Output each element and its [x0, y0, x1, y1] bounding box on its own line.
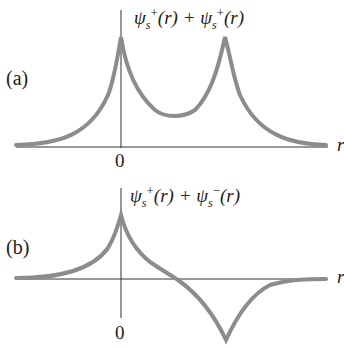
- superscript: +: [146, 183, 153, 198]
- psi-symbol: ψ: [134, 7, 146, 28]
- subscript: s: [212, 18, 217, 32]
- axis-label-a: r: [337, 134, 344, 156]
- panel-label-b: (b): [6, 236, 29, 259]
- origin-label-a: 0: [115, 150, 125, 172]
- subscript: s: [208, 196, 213, 210]
- argument: (r): [220, 185, 240, 206]
- curve-symmetric-sum: [16, 37, 326, 145]
- curve-antisymmetric-sum: [16, 215, 326, 340]
- psi-symbol: ψ: [200, 7, 212, 28]
- argument: (r) +: [158, 7, 196, 28]
- equation-a: ψs+(r) + ψs+(r): [134, 5, 244, 33]
- superscript: −: [213, 183, 220, 198]
- diagram-canvas: [0, 0, 344, 350]
- psi-symbol: ψ: [196, 185, 208, 206]
- argument: (r) +: [154, 185, 192, 206]
- superscript: +: [217, 5, 224, 20]
- argument: (r): [224, 7, 244, 28]
- subscript: s: [146, 18, 151, 32]
- panel-label-a: (a): [6, 67, 28, 90]
- subscript: s: [142, 196, 147, 210]
- psi-symbol: ψ: [130, 185, 142, 206]
- origin-label-b: 0: [115, 322, 125, 344]
- equation-b: ψs+(r) + ψs−(r): [130, 183, 240, 211]
- axis-label-b: r: [337, 266, 344, 288]
- superscript: +: [150, 5, 157, 20]
